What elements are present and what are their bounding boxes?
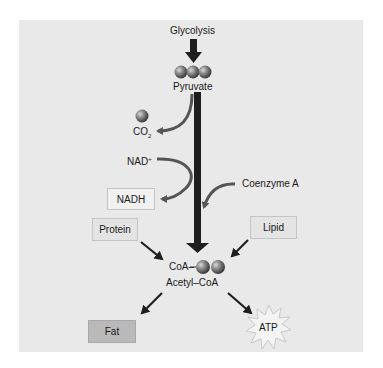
co2-text: CO: [133, 126, 148, 137]
protein-arrow: [141, 242, 162, 259]
nad-superscript: +: [148, 156, 152, 162]
pyruvate-molecule-icon: [175, 66, 212, 79]
atp-arrow: [228, 293, 251, 313]
co2-molecule-icon: [136, 110, 149, 123]
acetyl-coa-label: Acetyl–CoA: [166, 277, 218, 289]
fat-arrow: [142, 293, 162, 313]
protein-box: Protein: [92, 218, 138, 241]
coa-prefix-label: CoA–: [169, 261, 194, 273]
co2-label: CO2: [133, 126, 151, 142]
nadh-box: NADH: [107, 188, 155, 210]
nad-text: NAD: [127, 156, 148, 167]
lipid-arrow: [232, 240, 248, 256]
glycolysis-label: Glycolysis: [170, 25, 215, 37]
pathway-arrows: [0, 0, 383, 368]
acetyl-molecule-icon: [190, 260, 225, 274]
coenzyme-a-label: Coenzyme A: [242, 178, 299, 190]
glycolysis-arrow: [185, 39, 202, 63]
nad-label: NAD+: [127, 153, 152, 168]
co2-subscript: 2: [148, 133, 151, 139]
nad-reduction-arrow: [157, 159, 191, 199]
lipid-box: Lipid: [250, 216, 297, 239]
co2-release-arrow: [158, 94, 192, 131]
pyruvate-label: Pyruvate: [173, 81, 212, 93]
fat-box: Fat: [88, 320, 136, 343]
coenzyme-a-arrow: [204, 184, 235, 207]
atp-label: ATP: [259, 322, 278, 334]
